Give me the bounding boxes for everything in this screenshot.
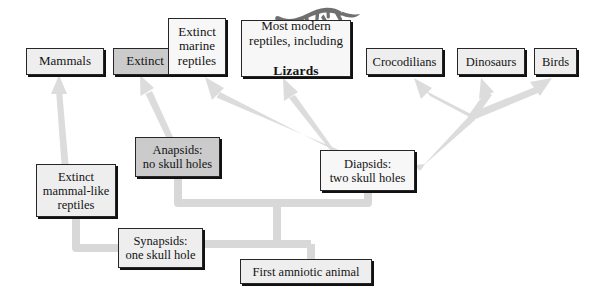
node-label-birds: Birds <box>539 55 572 69</box>
node-label-extinct: Extinct <box>118 54 172 69</box>
node-label-anapsids: Anapsids: no skull holes <box>140 143 215 171</box>
node-label-mammals: Mammals <box>31 54 99 69</box>
node-label-synapsids: Synapsids: one skull hole <box>123 234 198 262</box>
arrow-diapsids-to-extinct-marine <box>205 77 344 156</box>
node-mammals[interactable]: Mammals <box>26 48 104 75</box>
node-extinct-marine[interactable]: Extinct marine reptiles <box>168 18 226 75</box>
arrow-diapsids-to-crocodilians <box>414 78 475 171</box>
connector-synapsids-left <box>76 217 118 248</box>
arrow-diapsids-to-modern <box>283 78 336 153</box>
node-modern-reptiles[interactable]: Most modern reptiles, includingLizards <box>241 20 351 77</box>
node-first-amniotic[interactable]: First amniotic animal <box>240 259 372 284</box>
arrow-extinct-mammal-to-mammals <box>51 75 69 164</box>
cladogram-diagram: MammalsExtinctExtinct marine reptilesMos… <box>0 0 599 304</box>
node-label-modern-reptiles: Most modern reptiles, including <box>246 19 346 48</box>
arrow-anapsids-to-extinct <box>140 75 173 137</box>
node-diapsids[interactable]: Diapsids: two skull holes <box>320 150 415 191</box>
node-birds[interactable]: Birds <box>534 48 577 75</box>
node-label-dinosaurs: Dinosaurs <box>462 55 520 69</box>
node-label-extinct-marine: Extinct marine reptiles <box>173 25 221 69</box>
connector-anapsids-stem <box>178 177 277 203</box>
node-synapsids[interactable]: Synapsids: one skull hole <box>118 228 203 268</box>
node-label-crocodilians: Crocodilians <box>371 55 438 69</box>
node-label-extinct-mammal: Extinct mammal-like reptiles <box>41 170 111 212</box>
node-dinosaurs[interactable]: Dinosaurs <box>457 48 525 75</box>
connector-diapsids-stem <box>277 191 368 203</box>
node-label-first-amniotic: First amniotic animal <box>245 265 367 279</box>
node-label-emphasis-modern-reptiles: Lizards <box>273 63 319 78</box>
node-crocodilians[interactable]: Crocodilians <box>366 48 443 75</box>
node-extinct-mammal[interactable]: Extinct mammal-like reptiles <box>36 164 116 217</box>
node-anapsids[interactable]: Anapsids: no skull holes <box>135 137 220 177</box>
node-label-diapsids: Diapsids: two skull holes <box>325 157 410 185</box>
